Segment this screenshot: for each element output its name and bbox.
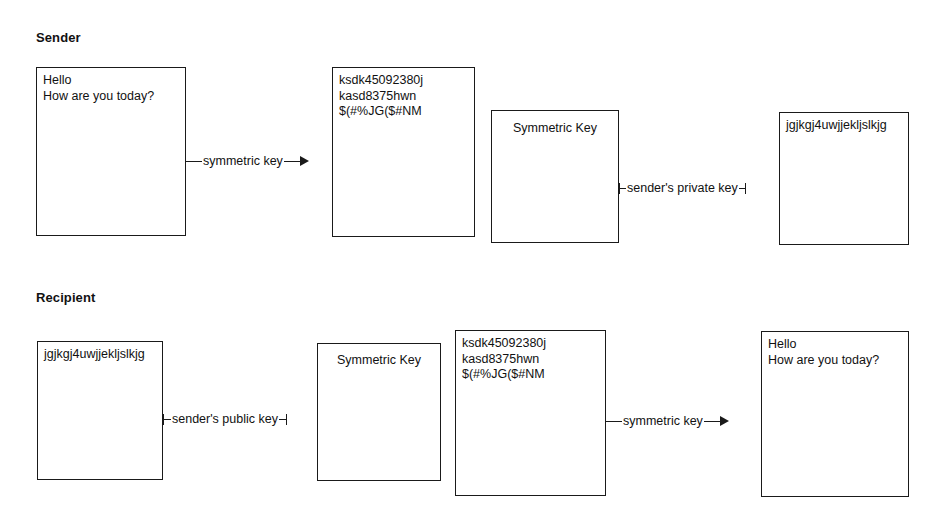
sender-ciphertext-box: ksdk45092380j kasd8375hwn $(#%JG($#NM xyxy=(332,67,475,237)
connector-line-right xyxy=(279,419,286,420)
recipient-connector-symmetric-key-label: symmetric key xyxy=(622,414,704,428)
recipient-signed-key-text: jgjkgj4uwjjekljslkjg xyxy=(44,347,159,363)
recipient-signed-key-box: jgjkgj4uwjjekljslkjg xyxy=(37,341,163,480)
recipient-plaintext-box: Hello How are you today? xyxy=(761,331,909,497)
connector-stub-right xyxy=(745,183,746,194)
arrow-head-icon xyxy=(300,156,309,166)
recipient-ciphertext-box: ksdk45092380j kasd8375hwn $(#%JG($#NM xyxy=(455,330,606,496)
arrow-head-icon xyxy=(720,416,729,426)
recipient-connector-public-key-label: sender's public key xyxy=(171,412,279,426)
diagram-canvas: Sender Hello How are you today? symmetri… xyxy=(0,0,944,522)
connector-line-left xyxy=(606,421,622,422)
sender-signed-key-box: jgjkgj4uwjjekljslkjg xyxy=(779,112,909,245)
sender-connector-symmetric-key: symmetric key xyxy=(186,153,309,169)
sender-plaintext-text: Hello How are you today? xyxy=(43,73,182,104)
sender-ciphertext-text: ksdk45092380j kasd8375hwn $(#%JG($#NM xyxy=(339,73,471,120)
sender-signed-key-text: jgjkgj4uwjjekljslkjg xyxy=(786,118,905,134)
recipient-connector-public-key: sender's public key xyxy=(163,411,287,427)
recipient-symmetric-key-box: Symmetric Key xyxy=(317,343,441,481)
recipient-ciphertext-text: ksdk45092380j kasd8375hwn $(#%JG($#NM xyxy=(462,336,602,383)
connector-line-left xyxy=(164,419,171,420)
connector-line-right xyxy=(704,421,721,422)
connector-stub-right xyxy=(286,414,287,425)
sender-connector-private-key-label: sender's private key xyxy=(626,181,739,195)
section-heading-sender: Sender xyxy=(36,30,81,45)
connector-line-right xyxy=(284,161,301,162)
connector-line-left xyxy=(186,161,202,162)
section-heading-recipient: Recipient xyxy=(36,290,95,305)
recipient-plaintext-text: Hello How are you today? xyxy=(768,337,905,368)
sender-symmetric-key-box: Symmetric Key xyxy=(491,110,619,243)
sender-connector-private-key: sender's private key xyxy=(619,180,746,196)
recipient-connector-symmetric-key: symmetric key xyxy=(606,413,729,429)
sender-plaintext-box: Hello How are you today? xyxy=(36,67,186,236)
sender-connector-symmetric-key-label: symmetric key xyxy=(202,154,284,168)
recipient-symmetric-key-text: Symmetric Key xyxy=(318,353,440,369)
sender-symmetric-key-text: Symmetric Key xyxy=(492,121,618,137)
